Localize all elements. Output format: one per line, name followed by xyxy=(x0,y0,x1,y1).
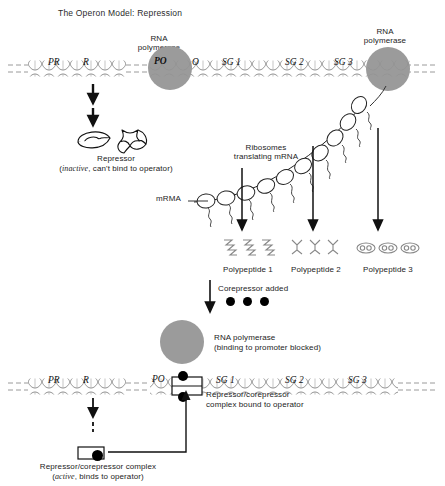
polypeptide-3-label: Polypeptide 3 xyxy=(348,265,428,274)
gene-label-sg2: SG 2 xyxy=(285,57,304,67)
bound-complex-dot-top xyxy=(178,371,188,381)
complex-binding-path xyxy=(100,394,195,456)
ribosomes-label-line1: Ribosomes xyxy=(206,143,326,152)
bottom-gene-label-po: PO xyxy=(152,374,165,384)
bound-complex-label-line2: complex bound to operator xyxy=(206,400,304,409)
active-state-word: active xyxy=(55,472,75,481)
operon-diagram: The Operon Model: Repression RNA polymer… xyxy=(0,0,445,486)
bottom-gene-label-pr: PR xyxy=(48,375,60,385)
active-complex-state-label: (active, binds to operator) xyxy=(16,472,180,481)
repressor-shapes xyxy=(74,126,158,156)
repressor-state-word: inactive xyxy=(62,164,88,173)
corepressor-label: Corepressor added xyxy=(218,284,288,293)
repressor-state-label: (inactive, can't bind to operator) xyxy=(18,164,214,173)
polypeptide-2-label: Polypeptide 2 xyxy=(276,265,356,274)
corepressor-dot-1 xyxy=(226,297,235,306)
rna-polymerase-left-label-line1: RNA xyxy=(123,34,195,43)
blocked-rna-polymerase-circle xyxy=(160,320,204,364)
polymerase-right-helix-overlay xyxy=(366,56,412,82)
gene-label-po: PO xyxy=(154,56,167,66)
corepressor-dot-3 xyxy=(260,297,269,306)
gene-label-o: O xyxy=(192,57,199,67)
gene-label-sg3: SG 3 xyxy=(334,57,353,67)
bottom-gene-label-r: R xyxy=(83,375,89,385)
polypeptide-arrows xyxy=(224,168,404,236)
polymerase-mrna-connector xyxy=(352,86,392,112)
page-title: The Operon Model: Repression xyxy=(58,8,182,18)
polypeptide-1-glyphs xyxy=(218,238,278,262)
blocked-polymerase-label-line1: RNA polymerase xyxy=(214,333,275,342)
rna-polymerase-right-label-line1: RNA xyxy=(349,27,421,36)
bottom-gene-label-sg2: SG 2 xyxy=(285,375,304,385)
gene-label-r: R xyxy=(83,57,89,67)
mrna-leader-line xyxy=(188,198,210,204)
gene-label-sg1: SG 1 xyxy=(222,57,241,67)
transcription-arrows-r xyxy=(80,84,106,130)
ribosomes-label-line2: translating mRNA xyxy=(206,152,326,161)
bound-complex-label-line1: Repressor/corepressor xyxy=(206,390,289,399)
bottom-gene-label-sg3: SG 3 xyxy=(348,375,367,385)
bottom-gene-label-sg1: SG 1 xyxy=(216,375,235,385)
corepressor-dot-2 xyxy=(243,297,252,306)
active-state-rest: , binds to operator) xyxy=(75,472,144,481)
repressor-state-rest: , can't bind to operator) xyxy=(88,164,173,173)
rna-polymerase-right-label-line2: polymerase xyxy=(349,36,421,45)
polypeptide-2-glyphs xyxy=(288,238,344,262)
active-complex-label: Repressor/corepressor complex xyxy=(8,462,188,471)
repressor-label: Repressor xyxy=(36,154,196,163)
mrna-label: mRMA xyxy=(156,194,181,203)
polypeptide-3-glyphs xyxy=(356,240,420,260)
gene-label-pr: PR xyxy=(48,57,60,67)
blocked-polymerase-label-line2: (binding to promoter blocked) xyxy=(214,343,321,352)
